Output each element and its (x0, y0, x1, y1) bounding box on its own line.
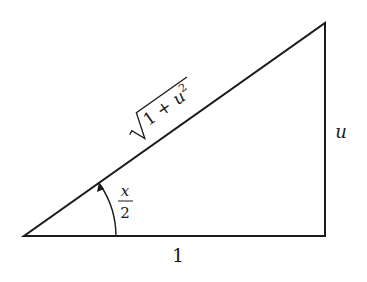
base-label: 1 (172, 244, 184, 266)
triangle (24, 23, 325, 236)
angle-arc (101, 186, 116, 236)
angle-denominator: 2 (120, 204, 130, 222)
angle-numerator: x (121, 182, 130, 200)
hypotenuse-label: 1 + u2 (122, 77, 202, 144)
triangle-diagram: x 2 1 u 1 + u2 (0, 0, 367, 282)
vertical-side-label: u (335, 121, 347, 142)
